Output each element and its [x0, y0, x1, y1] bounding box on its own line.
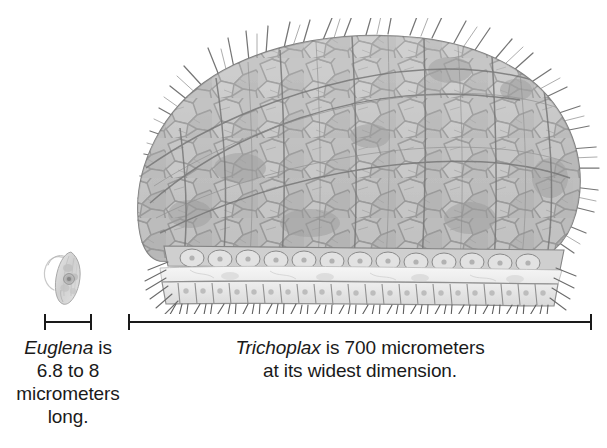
trichoplax-cross-section-illustration: [120, 18, 600, 314]
trichoplax-caption-line-1: Trichoplax is 700 micrometers: [170, 336, 550, 359]
euglena-caption-line-3: micrometers: [2, 382, 134, 405]
trichoplax-caption: Trichoplax is 700 micrometers at its wid…: [170, 336, 550, 382]
trichoplax-scale-bar: [128, 314, 592, 330]
trichoplax-species-name: Trichoplax: [235, 337, 320, 358]
euglena-caption: Euglena is 6.8 to 8 micrometers long.: [2, 336, 134, 428]
euglena-caption-line-4: long.: [2, 405, 134, 428]
euglena-caption-line-1-rest: is: [93, 337, 112, 358]
scale-bar-line: [128, 321, 592, 323]
scale-bar-tick-right: [590, 314, 592, 330]
euglena-scale-bar: [44, 314, 92, 330]
euglena-caption-line-1: Euglena is: [2, 336, 134, 359]
euglena-caption-line-2: 6.8 to 8: [2, 359, 134, 382]
euglena-species-name: Euglena: [24, 337, 93, 358]
scale-bar-tick-right: [90, 314, 92, 330]
euglena-cell-illustration: [38, 244, 96, 314]
trichoplax-caption-line-2: at its widest dimension.: [170, 359, 550, 382]
scale-bar-line: [44, 321, 92, 323]
size-comparison-figure: Euglena is 6.8 to 8 micrometers long. Tr…: [0, 0, 607, 448]
trichoplax-caption-line-1-rest: is 700 micrometers: [321, 337, 485, 358]
